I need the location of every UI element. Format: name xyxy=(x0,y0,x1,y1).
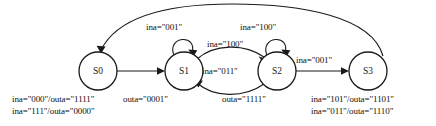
arrowhead-s0-to-s1 xyxy=(157,67,165,75)
transition-label-s1-self-loop: ina="001" xyxy=(146,22,182,32)
fsm-diagram: S0 S1 S2 S3 ina="001" ina="100" ina="011… xyxy=(0,0,436,126)
state-label-s3: S3 xyxy=(363,66,373,76)
state-output-label-s0: ina="000"/outa="1111" ina="111"/outa="00… xyxy=(12,94,95,117)
state-output-line: outa="1111" xyxy=(222,94,266,106)
state-output-line: ina="011"/outa="1110" xyxy=(311,106,394,118)
transition-label-s2-self-loop: ina="100" xyxy=(240,22,276,32)
transition-s2-to-s1 xyxy=(197,83,264,94)
state-output-line: ina="000"/outa="1111" xyxy=(12,94,95,106)
state-output-label-s1: outa="0001" xyxy=(123,94,168,106)
arrowhead-s2-to-s3 xyxy=(341,67,349,75)
state-output-line: ina="101"/outa="1101" xyxy=(311,94,394,106)
state-label-s1: S1 xyxy=(179,66,189,76)
state-output-line: ina="111"/outa="0000" xyxy=(12,106,95,118)
state-label-s0: S0 xyxy=(93,66,103,76)
state-output-line: outa="0001" xyxy=(123,94,168,106)
transition-label-s2-to-s3: ina="001" xyxy=(296,55,332,65)
state-output-label-s2: outa="1111" xyxy=(222,94,266,106)
transition-label-s1-to-s2: ina="100" xyxy=(207,39,243,49)
state-output-label-s3: ina="101"/outa="1101" ina="011"/outa="11… xyxy=(311,94,394,117)
state-label-s2: S2 xyxy=(272,66,282,76)
transition-label-s2-to-s1: ina="011" xyxy=(202,66,238,76)
